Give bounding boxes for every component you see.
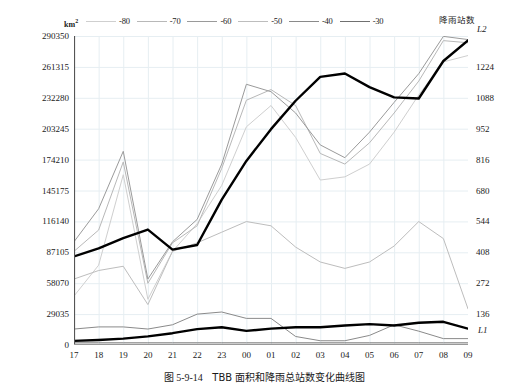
legend-item-50: -50 — [238, 16, 282, 26]
x-axis-tick: 00 — [242, 350, 251, 360]
legend-label-50: -50 — [271, 16, 282, 26]
x-axis-tick: 21 — [168, 350, 177, 360]
l2-series-label: L2 — [477, 24, 487, 34]
figure-number: 图 5-9-14 — [164, 372, 203, 383]
y-axis-left-tick: 232280 — [3, 93, 69, 103]
legend-label-80: -80 — [119, 16, 130, 26]
y-axis-right-tick: 272 — [476, 278, 490, 288]
x-axis-tick: 07 — [414, 350, 423, 360]
y-axis-left-tick: 87105 — [3, 247, 69, 257]
x-axis-tick: 23 — [217, 350, 226, 360]
legend-swatch-30 — [340, 21, 370, 22]
legend-label-70: -70 — [170, 16, 181, 26]
chart-legend: -80 -70 -60 -50 -40 -30 — [86, 14, 390, 28]
legend-swatch-40 — [289, 21, 319, 22]
x-axis-tick: 22 — [193, 350, 202, 360]
y-axis-right-tick: 136 — [476, 309, 490, 319]
y-axis-left-tick: 116140 — [3, 216, 69, 226]
y-axis-left-tick: 261315 — [3, 62, 69, 72]
plot-area — [74, 36, 468, 345]
y-axis-left-tick: 290350 — [3, 31, 69, 41]
legend-swatch-50 — [238, 21, 268, 22]
legend-item-30: -30 — [340, 16, 384, 26]
y-axis-right-tick: 1088 — [476, 93, 494, 103]
y-axis-left-tick: 203245 — [3, 124, 69, 134]
figure-caption-text: TBB 面积和降雨总站数变化曲线图 — [212, 372, 365, 383]
l1-series-label: L1 — [478, 325, 488, 335]
y-axis-right-tick: 680 — [476, 186, 490, 196]
x-axis-tick: 01 — [267, 350, 276, 360]
x-axis-tick: 09 — [464, 350, 473, 360]
x-axis-tick: 19 — [119, 350, 128, 360]
y-axis-right-tick: 408 — [476, 247, 490, 257]
y-axis-right-tick: 816 — [476, 155, 490, 165]
x-axis-tick: 18 — [94, 350, 103, 360]
y-axis-left-ticks: 2903502613152322802032451742101451751161… — [0, 0, 69, 389]
y-axis-left-tick: 29035 — [3, 309, 69, 319]
rain-station-annotation: 降雨站数 — [439, 13, 475, 25]
legend-label-40: -40 — [322, 16, 333, 26]
legend-item-60: -60 — [187, 16, 231, 26]
legend-item-70: -70 — [137, 16, 181, 26]
legend-label-30: -30 — [373, 16, 384, 26]
chart-svg — [74, 36, 468, 345]
x-axis-tick: 06 — [390, 350, 399, 360]
legend-item-80: -80 — [86, 16, 130, 26]
y-axis-right-tick: 544 — [476, 216, 490, 226]
chart-figure: -80 -70 -60 -50 -40 -30 km2 290350261315… — [0, 0, 529, 389]
y-axis-unit-exponent: 2 — [75, 18, 78, 24]
y-axis-left-tick: 58070 — [3, 278, 69, 288]
x-axis-tick: 08 — [439, 350, 448, 360]
legend-swatch-70 — [137, 21, 167, 22]
legend-swatch-60 — [187, 21, 217, 22]
y-axis-left-tick: 0 — [3, 340, 69, 350]
legend-label-60: -60 — [220, 16, 231, 26]
x-axis-tick: 02 — [291, 350, 300, 360]
x-axis-tick: 05 — [365, 350, 374, 360]
legend-item-40: -40 — [289, 16, 333, 26]
legend-swatch-80 — [86, 21, 116, 22]
x-axis-tick: 04 — [340, 350, 349, 360]
x-axis-tick: 20 — [143, 350, 152, 360]
y-axis-right-tick: 952 — [476, 124, 490, 134]
x-axis-tick: 17 — [70, 350, 79, 360]
figure-caption: 图 5-9-14 TBB 面积和降雨总站数变化曲线图 — [0, 369, 529, 384]
y-axis-left-tick: 174210 — [3, 155, 69, 165]
y-axis-left-tick: 145175 — [3, 186, 69, 196]
y-axis-right-tick: 1224 — [476, 62, 494, 72]
x-axis-tick: 03 — [316, 350, 325, 360]
